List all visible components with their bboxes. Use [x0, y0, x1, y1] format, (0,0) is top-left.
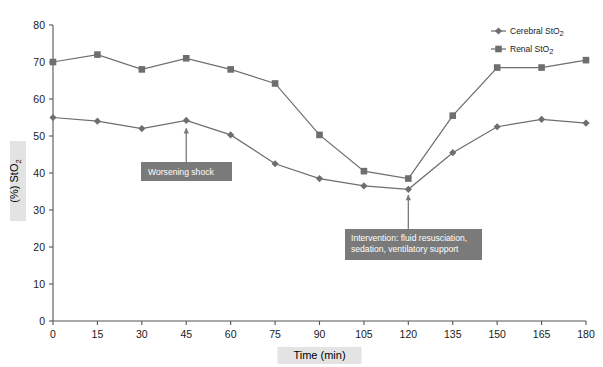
x-tick-label: 165 — [533, 328, 551, 340]
data-point-marker — [583, 57, 590, 64]
data-point-marker — [49, 114, 56, 121]
legend-label: Cerebral StO2 — [510, 26, 564, 38]
y-tick-label: 70 — [33, 56, 45, 68]
annotation-arrow-icon — [406, 194, 411, 200]
annotation-text-line: Worsening shock — [148, 167, 214, 177]
data-point-marker — [94, 51, 101, 58]
series-renal — [50, 51, 590, 182]
diamond-marker-icon — [495, 27, 502, 34]
data-point-marker — [50, 59, 57, 66]
x-tick-label: 75 — [269, 328, 281, 340]
annotation-text-line: Intervention: fluid resusciation, — [351, 233, 467, 243]
x-tick-label: 45 — [180, 328, 192, 340]
data-point-marker — [183, 55, 190, 62]
data-point-marker — [361, 168, 368, 175]
chart-container: 0102030405060708001530456075901051201351… — [0, 0, 603, 367]
legend-label: Renal StO2 — [510, 44, 553, 56]
y-tick-label: 60 — [33, 93, 45, 105]
y-tick-label: 20 — [33, 241, 45, 253]
y-tick-label: 10 — [33, 278, 45, 290]
chart-legend: Cerebral StO2Renal StO2 — [491, 26, 564, 56]
data-point-marker — [582, 119, 589, 126]
data-point-marker — [316, 175, 323, 182]
x-tick-label: 90 — [314, 328, 326, 340]
x-tick-label: 180 — [577, 328, 595, 340]
chart-axes — [53, 25, 586, 321]
data-point-marker — [494, 123, 501, 130]
annotation-arrow-icon — [184, 128, 189, 134]
y-tick-label: 80 — [33, 19, 45, 31]
x-tick-label: 135 — [444, 328, 462, 340]
data-point-marker — [138, 125, 145, 132]
data-point-marker — [272, 80, 279, 87]
square-marker-icon — [495, 46, 502, 53]
series-line — [53, 55, 586, 179]
x-tick-label: 120 — [400, 328, 418, 340]
y-tick-label: 30 — [33, 204, 45, 216]
x-tick-label: 0 — [50, 328, 56, 340]
series-cerebral — [49, 114, 589, 193]
y-tick-label: 0 — [39, 315, 45, 327]
data-point-marker — [139, 66, 146, 73]
x-tick-label: 150 — [488, 328, 506, 340]
data-point-marker — [360, 182, 367, 189]
x-axis-ticks: 0153045607590105120135150165180 — [50, 321, 595, 340]
data-point-marker — [449, 112, 456, 119]
x-tick-label: 60 — [225, 328, 237, 340]
data-point-marker — [271, 160, 278, 167]
data-point-marker — [227, 66, 234, 73]
data-point-marker — [227, 131, 234, 138]
data-point-marker — [494, 64, 501, 71]
x-axis-title: Time (min) — [293, 349, 345, 361]
sto2-line-chart: 0102030405060708001530456075901051201351… — [0, 0, 603, 367]
annotation-worsening-shock: Worsening shock — [141, 128, 232, 181]
y-tick-label: 40 — [33, 167, 45, 179]
annotation-text-line: sedation, ventilatory support — [351, 244, 459, 254]
y-tick-label: 50 — [33, 130, 45, 142]
data-point-marker — [183, 117, 190, 124]
x-tick-label: 30 — [136, 328, 148, 340]
x-tick-label: 15 — [92, 328, 104, 340]
data-point-marker — [94, 118, 101, 125]
data-point-marker — [316, 132, 323, 139]
data-point-marker — [405, 175, 412, 182]
data-point-marker — [538, 64, 545, 71]
data-point-marker — [538, 116, 545, 123]
annotation-intervention: Intervention: fluid resusciation,sedatio… — [345, 194, 482, 260]
x-tick-label: 105 — [355, 328, 373, 340]
